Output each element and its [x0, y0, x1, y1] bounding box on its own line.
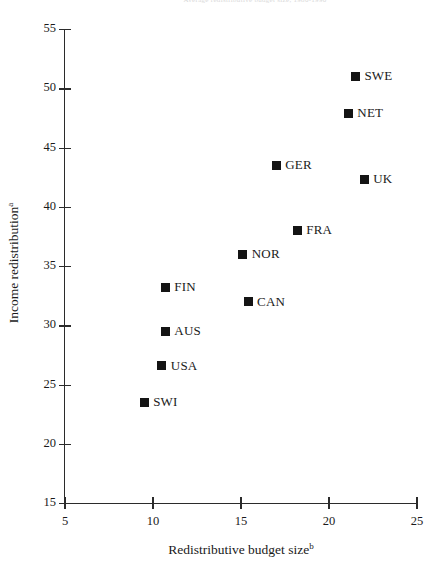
x-axis-title-superscript: b [309, 541, 314, 551]
square-marker-icon [293, 226, 302, 235]
data-point-label: CAN [257, 293, 285, 311]
y-tick-mark [59, 444, 71, 445]
square-marker-icon [161, 283, 170, 292]
data-point-label: FIN [174, 278, 196, 296]
y-tick-mark [59, 148, 71, 149]
y-tick-label: 35 [26, 258, 56, 273]
x-tick-label: 25 [397, 514, 435, 529]
x-tick-mark [152, 497, 153, 509]
data-point-label: AUS [174, 322, 201, 340]
y-tick-mark [59, 385, 71, 386]
y-tick-mark [59, 88, 71, 89]
data-point-label: GER [285, 156, 312, 174]
x-tick-mark [416, 497, 417, 509]
x-tick-label: 5 [45, 514, 85, 529]
scatter-plot-figure: Average redistributive budget size, 1980… [0, 0, 435, 574]
square-marker-icon [238, 250, 247, 259]
data-point-label: SWE [364, 67, 392, 85]
y-axis-title-superscript: a [5, 203, 15, 207]
x-tick-label: 15 [221, 514, 261, 529]
y-tick-mark [59, 325, 71, 326]
square-marker-icon [351, 72, 360, 81]
y-axis-title: Income redistributiona [6, 163, 22, 363]
y-tick-label: 30 [26, 317, 56, 332]
y-tick-mark [59, 207, 71, 208]
x-axis-title: Redistributive budget sizeb [65, 541, 417, 558]
square-marker-icon [272, 161, 281, 170]
top-cropped-caption: Average redistributive budget size, 1980… [150, 0, 360, 4]
data-point-label: SWI [153, 393, 177, 411]
y-axis-title-text: Income redistribution [6, 207, 21, 324]
x-axis-title-text: Redistributive budget size [168, 542, 309, 557]
data-point-label: NET [357, 104, 383, 122]
square-marker-icon [161, 327, 170, 336]
y-tick-label: 25 [26, 377, 56, 392]
x-tick-mark [240, 497, 241, 509]
x-tick-mark [64, 497, 65, 509]
data-point-label: UK [373, 170, 392, 188]
y-tick-label: 20 [26, 436, 56, 451]
y-tick-label: 15 [26, 495, 56, 510]
square-marker-icon [344, 109, 353, 118]
y-tick-mark [59, 29, 71, 30]
y-tick-label: 55 [26, 21, 56, 36]
square-marker-icon [360, 175, 369, 184]
data-point-label: USA [171, 357, 198, 375]
x-tick-mark [328, 497, 329, 509]
x-tick-label: 10 [133, 514, 173, 529]
data-point-label: NOR [252, 245, 280, 263]
data-point-label: FRA [306, 221, 332, 239]
y-tick-label: 45 [26, 140, 56, 155]
square-marker-icon [140, 398, 149, 407]
x-tick-label: 20 [309, 514, 349, 529]
square-marker-icon [157, 361, 166, 370]
plot-area: 152025303540455055 510152025 SWENETGERUK… [65, 29, 417, 503]
y-tick-mark [59, 266, 71, 267]
square-marker-icon [244, 297, 253, 306]
y-tick-label: 50 [26, 80, 56, 95]
y-tick-label: 40 [26, 199, 56, 214]
